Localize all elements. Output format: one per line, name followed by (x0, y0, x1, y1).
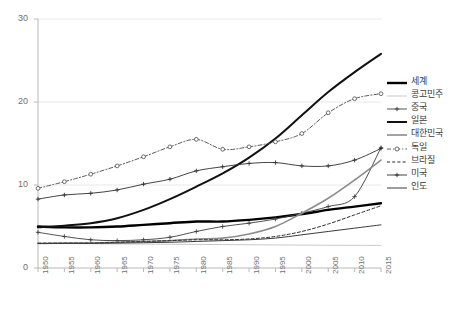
legend-item-label: 브라질 (411, 155, 435, 165)
series-marker-7-2 (89, 191, 93, 195)
legend-key-icon (386, 180, 408, 192)
x-tick-label-2005: 2005 (332, 256, 340, 274)
series-marker-5-13 (379, 92, 383, 96)
series-marker-7-11 (326, 164, 330, 168)
series-line-3 (38, 54, 381, 227)
series-marker-5-4 (142, 155, 146, 159)
series-marker-7-3 (115, 188, 119, 192)
legend-key-icon (386, 101, 408, 113)
legend-item-label: 콩고민주 (411, 89, 443, 99)
x-tick-label-1955: 1955 (68, 256, 76, 274)
series-marker-5-12 (353, 97, 357, 101)
y-tick-label-0: 0 (4, 263, 28, 272)
line-chart: 3020100 19501955196019651970197519801985… (0, 0, 451, 311)
series-marker-5-2 (89, 172, 93, 176)
series-marker-7-6 (194, 169, 198, 173)
legend-key-icon (386, 141, 408, 153)
legend-key-icon (386, 167, 408, 179)
legend-item-8[interactable]: 인도 (386, 180, 450, 193)
series-marker-5-3 (115, 164, 119, 168)
legend-key-icon (386, 154, 408, 166)
series-marker-7-1 (62, 193, 66, 197)
legend-item-label: 중국 (411, 102, 427, 112)
series-marker-5-0 (36, 186, 40, 190)
legend-item-label: 세계 (411, 76, 427, 86)
series-marker-7-4 (141, 182, 145, 186)
legend-item-7[interactable]: 미국 (386, 166, 450, 179)
series-marker-2-11 (326, 204, 330, 208)
legend-item-0[interactable]: 세계 (386, 74, 450, 87)
x-tick-label-2015: 2015 (385, 256, 393, 274)
legend-item-label: 대한민국 (411, 128, 443, 138)
series-marker-7-9 (273, 160, 277, 164)
y-tick-label-20: 20 (4, 97, 28, 106)
x-tick-label-2010: 2010 (358, 256, 366, 274)
series-marker-2-6 (194, 229, 198, 233)
series-marker-5-11 (326, 111, 330, 115)
legend-item-6[interactable]: 브라질 (386, 153, 450, 166)
series-marker-2-1 (62, 234, 66, 238)
series-marker-5-9 (274, 140, 278, 144)
legend-item-label: 독일 (411, 142, 427, 152)
x-tick-label-1975: 1975 (173, 256, 181, 274)
series-marker-2-8 (247, 221, 251, 225)
series-marker-5-10 (300, 132, 304, 136)
series-marker-2-7 (220, 224, 224, 228)
series-marker-7-12 (352, 158, 356, 162)
series-marker-7-5 (168, 177, 172, 181)
legend-key-icon (386, 127, 408, 139)
series-marker-5-7 (221, 147, 225, 151)
series-marker-7-8 (247, 161, 251, 165)
x-tick-label-1970: 1970 (147, 256, 155, 274)
x-tick-label-1960: 1960 (94, 256, 102, 274)
y-tick-label-30: 30 (4, 14, 28, 23)
series-marker-5-1 (62, 180, 66, 184)
series-marker-5-6 (194, 137, 198, 141)
series-marker-5-8 (247, 145, 251, 149)
legend-key-icon (386, 88, 408, 100)
series-marker-7-10 (300, 164, 304, 168)
legend-item-label: 인도 (411, 181, 427, 191)
series-line-6 (38, 206, 381, 243)
x-tick-label-1980: 1980 (200, 256, 208, 274)
x-tick-label-1995: 1995 (279, 256, 287, 274)
series-marker-5-5 (168, 145, 172, 149)
legend-item-2[interactable]: 중국 (386, 100, 450, 113)
x-tick-label-1985: 1985 (226, 256, 234, 274)
legend-item-label: 일본 (411, 115, 427, 125)
legend-item-label: 미국 (411, 168, 427, 178)
legend-key-icon (386, 114, 408, 126)
legend-item-4[interactable]: 대한민국 (386, 127, 450, 140)
x-tick-label-1965: 1965 (121, 256, 129, 274)
legend-item-5[interactable]: 독일 (386, 140, 450, 153)
x-tick-label-1990: 1990 (253, 256, 261, 274)
series-marker-2-0 (36, 230, 40, 234)
chart-legend: 세계콩고민주중국일본대한민국독일브라질미국인도 (386, 74, 450, 193)
series-marker-7-7 (220, 165, 224, 169)
legend-item-1[interactable]: 콩고민주 (386, 87, 450, 100)
x-tick-label-1950: 1950 (42, 256, 50, 274)
series-marker-7-0 (36, 197, 40, 201)
series-marker-2-5 (168, 235, 172, 239)
x-tick-label-2000: 2000 (305, 256, 313, 274)
y-tick-label-10: 10 (4, 180, 28, 189)
legend-key-icon (386, 75, 408, 87)
series-marker-2-2 (89, 238, 93, 242)
legend-item-3[interactable]: 일본 (386, 114, 450, 127)
